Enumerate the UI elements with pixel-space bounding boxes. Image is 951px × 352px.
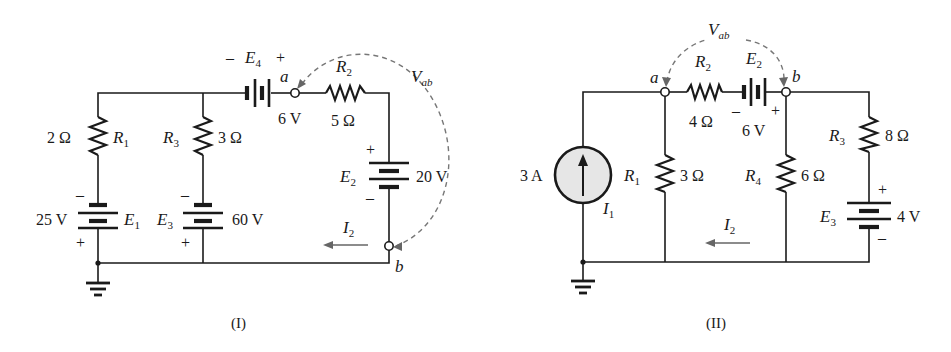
node-b bbox=[782, 88, 790, 96]
r3-value: 3 Ω bbox=[218, 129, 242, 146]
r1-value: 3 Ω bbox=[680, 167, 704, 184]
e3-plus-sign: + bbox=[181, 234, 190, 251]
e1-plus-sign: + bbox=[76, 234, 85, 251]
caption-2: (II) bbox=[706, 315, 726, 332]
battery-e3-icon bbox=[183, 205, 223, 228]
resistor-r3-icon bbox=[861, 117, 877, 152]
resistor-r1-icon bbox=[657, 155, 673, 192]
e2-minus-sign: – bbox=[731, 102, 741, 119]
vab-arrowhead-b bbox=[779, 77, 788, 87]
vab-arrowhead-a bbox=[662, 77, 671, 87]
current-source-i1-icon bbox=[555, 147, 611, 203]
r1-label: R1 bbox=[623, 166, 640, 187]
node-b-label: b bbox=[792, 67, 801, 86]
node-a-label: a bbox=[280, 67, 289, 86]
i2-label: I2 bbox=[723, 215, 735, 236]
resistor-r1-icon bbox=[90, 117, 106, 155]
e1-label: E1 bbox=[123, 210, 140, 231]
r3-value: 8 Ω bbox=[885, 127, 909, 144]
r4-value: 6 Ω bbox=[801, 167, 825, 184]
caption-1: (I) bbox=[231, 315, 246, 332]
e2-label: E2 bbox=[745, 49, 762, 70]
e2-plus-sign: + bbox=[771, 102, 780, 119]
e3-plus-sign: + bbox=[878, 181, 887, 198]
e3-label: E3 bbox=[156, 210, 173, 231]
r1-label: R1 bbox=[112, 128, 129, 149]
battery-e2-icon bbox=[744, 78, 765, 106]
battery-e2-icon bbox=[369, 163, 409, 187]
e4-label: E4 bbox=[244, 48, 261, 69]
circuit-2-wires bbox=[583, 92, 869, 280]
e2-label: E2 bbox=[339, 167, 356, 188]
r1-value: 2 Ω bbox=[47, 129, 71, 146]
e3-label: E3 bbox=[819, 207, 836, 228]
e1-value: 25 V bbox=[36, 211, 68, 228]
resistor-r4-icon bbox=[778, 155, 794, 192]
battery-e4-icon bbox=[247, 79, 269, 107]
r2-label: R2 bbox=[335, 57, 352, 78]
r2-label: R2 bbox=[694, 52, 711, 73]
e2-plus-sign: + bbox=[366, 141, 375, 158]
node-a bbox=[291, 89, 299, 97]
resistor-r2-icon bbox=[687, 85, 722, 99]
e3-value: 60 V bbox=[232, 211, 264, 228]
resistor-r2-icon bbox=[326, 86, 365, 100]
battery-e3-icon bbox=[847, 203, 891, 227]
i1-label: I1 bbox=[602, 199, 614, 220]
circuit-2: 3 A I1 a R2 4 Ω – + E2 6 V b Vab R1 3 bbox=[520, 20, 921, 332]
node-b bbox=[385, 242, 393, 250]
node-a bbox=[661, 88, 669, 96]
vab-label: Vab bbox=[411, 67, 433, 88]
e3-minus-sign: – bbox=[877, 229, 887, 246]
e4-minus-sign: – bbox=[225, 49, 235, 66]
e3-minus-sign: – bbox=[180, 186, 190, 203]
i1-value: 3 A bbox=[520, 167, 543, 184]
r4-label: R4 bbox=[744, 166, 761, 187]
e1-minus-sign: – bbox=[75, 186, 85, 203]
r2-value: 4 Ω bbox=[689, 113, 713, 130]
r2-value: 5 Ω bbox=[331, 112, 355, 129]
i2-arrowhead bbox=[705, 239, 715, 247]
vab-arrowhead-b bbox=[393, 242, 402, 251]
e4-plus-sign: + bbox=[276, 49, 285, 66]
e4-value: 6 V bbox=[278, 110, 302, 127]
r3-label: R3 bbox=[828, 126, 845, 147]
resistor-r3-icon bbox=[195, 117, 211, 155]
i2-arrowhead bbox=[323, 241, 333, 249]
e2-value: 6 V bbox=[742, 122, 766, 139]
e3-value: 4 V bbox=[897, 208, 921, 225]
i2-label: I2 bbox=[342, 218, 354, 239]
circuit-1: – E4 + 6 V a R2 5 Ω 2 Ω R1 R3 3 Ω – + 25… bbox=[36, 48, 449, 332]
node-a-label: a bbox=[650, 68, 659, 87]
node-b-label: b bbox=[395, 257, 404, 276]
e2-value: 20 V bbox=[416, 168, 448, 185]
r3-label: R3 bbox=[162, 128, 179, 149]
battery-e1-icon bbox=[78, 205, 118, 228]
e2-minus-sign: – bbox=[365, 189, 375, 206]
vab-label: Vab bbox=[708, 20, 730, 41]
